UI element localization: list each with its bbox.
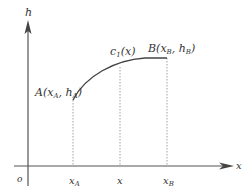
point-a-label: A(xA, hA) [34,86,82,100]
diagram-canvas: h x o A(xA, hA) B(xB, hB) c1(x) xA x xB [0,0,245,195]
x-axis-label: x [236,160,242,171]
tick-label-xB: xB [163,175,174,188]
tick-label-xA: xA [69,175,80,188]
curve-c1-label: c1(x) [110,45,135,59]
tick-label-x: x [117,175,123,186]
origin-label: o [17,174,23,184]
y-axis-label: h [25,6,32,19]
point-b-label: B(xB, hB) [147,42,195,56]
